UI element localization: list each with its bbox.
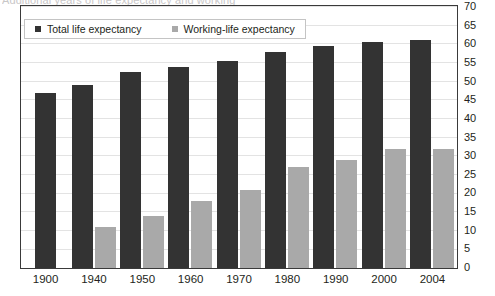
bar-group (166, 6, 214, 268)
bar-working-life-expectancy (288, 167, 309, 268)
bar-working-life-expectancy (143, 216, 164, 268)
bar-working-life-expectancy (240, 190, 261, 268)
bar-group (21, 6, 69, 268)
legend-item-total: Total life expectancy (35, 23, 142, 35)
bar-group (263, 6, 311, 268)
y-axis-tick-label: 40 (464, 113, 490, 124)
bar-total-life-expectancy (35, 93, 56, 268)
bars-container (21, 6, 457, 268)
gray-square-icon (172, 26, 178, 32)
bar-total-life-expectancy (217, 61, 238, 268)
bar-total-life-expectancy (168, 67, 189, 268)
x-axis: 190019401950196019701980199020002004 (20, 272, 458, 292)
bar-group (359, 6, 407, 268)
x-axis-tick-label: 2004 (407, 272, 457, 286)
dark-square-icon (35, 26, 41, 32)
chart-legend: Total life expectancy Working-life expec… (24, 19, 306, 39)
legend-item-working: Working-life expectancy (172, 23, 295, 35)
bar-working-life-expectancy (385, 149, 406, 268)
x-axis-tick-label: 1900 (21, 272, 71, 286)
y-axis-tick-label: 35 (464, 132, 490, 143)
x-axis-tick-label: 1940 (69, 272, 119, 286)
y-axis-tick-label: 50 (464, 76, 490, 87)
y-axis: 7065605550454035302520151050 (464, 0, 495, 296)
bar-group (311, 6, 359, 268)
y-axis-tick-label: 70 (464, 1, 490, 12)
y-axis-tick-label: 30 (464, 150, 490, 161)
y-axis-tick-label: 65 (464, 20, 490, 31)
bar-group (214, 6, 262, 268)
bar-total-life-expectancy (410, 40, 431, 268)
bar-total-life-expectancy (72, 85, 93, 268)
y-axis-tick-label: 55 (464, 57, 490, 68)
bar-total-life-expectancy (313, 46, 334, 268)
bar-group (118, 6, 166, 268)
bar-total-life-expectancy (120, 72, 141, 268)
x-axis-tick-label: 1950 (117, 272, 167, 286)
y-axis-tick-label: 15 (464, 206, 490, 217)
bar-group (408, 6, 456, 268)
y-axis-tick-label: 25 (464, 169, 490, 180)
y-axis-tick-label: 60 (464, 38, 490, 49)
x-axis-tick-label: 1960 (166, 272, 216, 286)
x-axis-tick-label: 1970 (214, 272, 264, 286)
y-axis-tick-label: 20 (464, 187, 490, 198)
bar-working-life-expectancy (95, 227, 116, 268)
plot-area (20, 5, 458, 269)
x-axis-tick-label: 1980 (262, 272, 312, 286)
legend-label-total: Total life expectancy (47, 23, 142, 35)
x-axis-tick-label: 2000 (359, 272, 409, 286)
bar-total-life-expectancy (265, 52, 286, 268)
x-axis-tick-label: 1990 (311, 272, 361, 286)
bar-total-life-expectancy (362, 42, 383, 268)
bar-working-life-expectancy (433, 149, 454, 268)
legend-label-working: Working-life expectancy (184, 23, 295, 35)
y-axis-tick-label: 0 (464, 262, 490, 273)
y-axis-tick-label: 45 (464, 94, 490, 105)
bar-group (69, 6, 117, 268)
bar-chart-figure: Total life expectancy Working-life expec… (0, 0, 495, 296)
y-axis-tick-label: 10 (464, 225, 490, 236)
bar-working-life-expectancy (336, 160, 357, 268)
y-axis-tick-label: 5 (464, 243, 490, 254)
bar-working-life-expectancy (191, 201, 212, 268)
